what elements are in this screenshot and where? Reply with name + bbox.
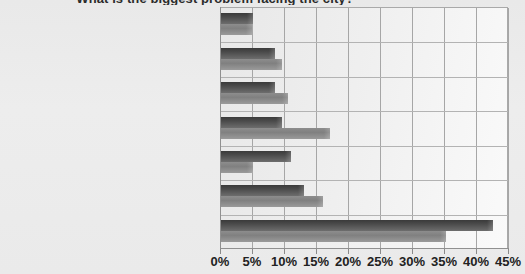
horizontal-gridline (220, 180, 508, 181)
bar-series-1 (221, 185, 304, 196)
bar-series-1 (221, 13, 253, 24)
x-axis-tick-label: 10% (271, 254, 297, 269)
x-axis-tick-label: 5% (243, 254, 262, 269)
horizontal-gridline (220, 111, 508, 112)
bar-highlight (317, 196, 323, 207)
bar-series-2 (221, 59, 282, 70)
bar-series-2 (221, 196, 323, 207)
bar-series-2 (221, 24, 252, 35)
vertical-gridline (380, 8, 381, 249)
x-axis-tick-label: 35% (431, 254, 457, 269)
bar-highlight (276, 117, 282, 128)
x-axis-tick-label: 30% (399, 254, 425, 269)
bar-highlight (269, 48, 275, 59)
x-axis-tick-label: 20% (335, 254, 361, 269)
bar-series-1 (221, 82, 275, 93)
vertical-gridline (508, 8, 509, 249)
bar-highlight (269, 82, 275, 93)
x-axis-tick-label: 0% (211, 254, 230, 269)
bar-series-2 (221, 162, 253, 173)
horizontal-gridline (220, 215, 508, 216)
vertical-gridline (444, 8, 445, 249)
bar-series-2 (221, 128, 330, 139)
bar-highlight (298, 185, 304, 196)
bar-series-1 (221, 220, 493, 231)
horizontal-gridline (220, 77, 508, 78)
bar-highlight (282, 93, 288, 104)
bar-highlight (324, 128, 330, 139)
bar-highlight (247, 162, 253, 173)
bar-highlight (440, 231, 446, 242)
horizontal-gridline (220, 146, 508, 147)
vertical-gridline (476, 8, 477, 249)
chart-title: What is the biggest problem facing the c… (0, 0, 430, 5)
vertical-gridline (348, 8, 349, 249)
bar-series-2 (221, 231, 446, 242)
bar-series-2 (221, 93, 288, 104)
x-axis-tick-label: 15% (303, 254, 329, 269)
horizontal-gridline (220, 42, 508, 43)
vertical-gridline (412, 8, 413, 249)
bar-highlight (246, 24, 252, 35)
bar-series-1 (221, 48, 275, 59)
bar-series-1 (221, 117, 282, 128)
bar-highlight (487, 220, 493, 231)
x-axis-tick-label: 45% (495, 254, 521, 269)
bar-chart: What is the biggest problem facing the c… (0, 0, 525, 274)
x-axis-line (220, 248, 509, 249)
bar-highlight (276, 59, 282, 70)
x-axis-tick-label: 25% (367, 254, 393, 269)
bar-highlight (247, 13, 253, 24)
bar-series-1 (221, 151, 291, 162)
bar-highlight (285, 151, 291, 162)
x-axis-tick-label: 40% (463, 254, 489, 269)
